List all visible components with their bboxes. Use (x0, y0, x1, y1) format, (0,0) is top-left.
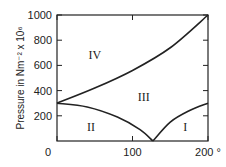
phase-boundary-curve (153, 103, 208, 141)
x-tick-label: 100 (123, 146, 141, 158)
x-tick-label: 0 (45, 146, 51, 158)
y-tick-label: 1000 (28, 9, 52, 21)
phase-boundary-curve (57, 103, 153, 141)
y-tick-label: 800 (34, 34, 52, 46)
region-label: IV (88, 48, 101, 62)
region-label: III (138, 90, 150, 104)
phase-boundary-curve (57, 15, 208, 103)
region-label: I (183, 120, 187, 134)
y-tick-label: 600 (34, 59, 52, 71)
y-axis-label: Pressure in Nm⁻² x 10⁶ (15, 26, 26, 129)
phase-diagram-chart: 20040060080010000100200 ° Pressure in Nm… (0, 0, 226, 167)
region-label: II (87, 120, 95, 134)
y-tick-label: 400 (34, 85, 52, 97)
x-tick-label: 200 ° (195, 146, 221, 158)
y-tick-label: 200 (34, 110, 52, 122)
